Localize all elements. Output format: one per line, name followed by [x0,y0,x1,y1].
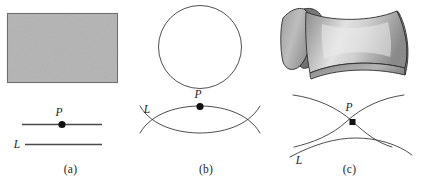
panel-c-graphic: P L [276,0,423,179]
panel-a-graphic: P L [0,0,141,179]
panel-b: P L (b) [136,0,276,179]
curve-l [290,138,412,157]
caption-a: (a) [0,163,141,175]
caption-b: (b) [136,163,276,175]
point-p-marker [350,119,356,125]
point-p-label: P [54,106,62,118]
point-p-marker [196,103,203,110]
flat-plane-texture [8,14,117,82]
sphere-circle [159,6,242,89]
figure-root: P L (a) P L (b) [0,0,423,179]
line-l-label: L [143,103,150,115]
saddle-surface [281,8,408,79]
line-l-label: L [13,138,20,150]
point-p-marker [58,121,65,128]
panel-b-graphic: P L [136,0,276,179]
panel-c: P L (c) [276,0,423,179]
panel-a: P L (a) [0,0,141,179]
point-p-label: P [344,101,352,113]
caption-c: (c) [276,163,423,175]
point-p-label: P [193,88,201,100]
